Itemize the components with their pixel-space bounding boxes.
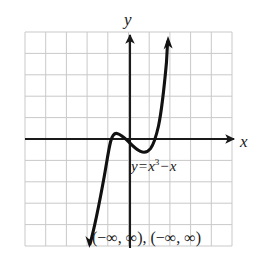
graph-figure: y x y=x3−x (−∞, ∞), (−∞, ∞) bbox=[0, 0, 258, 258]
equation-y-term: y bbox=[131, 158, 138, 174]
domain-range-label: (−∞, ∞), (−∞, ∞) bbox=[92, 230, 201, 246]
equation-x-term: x bbox=[170, 158, 177, 174]
equation-label: y=x3−x bbox=[131, 159, 176, 174]
y-axis-label: y bbox=[124, 11, 132, 28]
equation-x-cubed-base: x bbox=[148, 158, 155, 174]
x-axis-label: x bbox=[240, 133, 248, 150]
cubic-graph-svg bbox=[0, 0, 258, 258]
equation-equals-sign: = bbox=[138, 158, 148, 174]
equation-minus-sign: − bbox=[159, 158, 169, 174]
